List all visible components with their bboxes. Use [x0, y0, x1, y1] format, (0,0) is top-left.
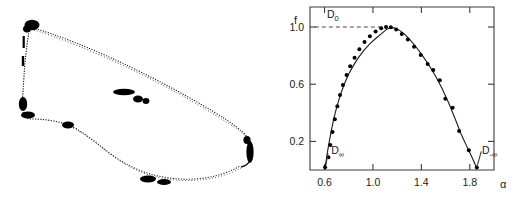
annotation-d-zero: D0: [327, 8, 339, 23]
dense-cluster-bottom-a: [140, 176, 156, 183]
data-point-0-5: [335, 104, 339, 108]
dense-cluster-left-elbow: [19, 97, 27, 111]
data-point-0-28: [457, 129, 461, 133]
orbit-lower-edge-noise: [68, 126, 241, 181]
attractor-plot: [0, 0, 272, 203]
dense-cluster-mid-upper-c: [143, 98, 150, 104]
data-point-0-16: [384, 25, 388, 29]
x-tick-label-1: 1.0: [366, 176, 381, 188]
y-tick-label-1: 0.6: [289, 78, 304, 90]
annotation-text-d-zero: D0: [327, 8, 339, 23]
data-point-0-13: [368, 34, 372, 38]
data-point-0-3: [331, 130, 335, 134]
data-point-0-0: [323, 165, 327, 169]
data-points: [323, 25, 479, 169]
dense-cluster-right-cap-b: [243, 136, 250, 144]
attractor-dense-clusters: [19, 20, 254, 185]
data-point-0-19: [400, 32, 404, 36]
data-point-0-22: [419, 53, 423, 57]
data-point-0-23: [426, 62, 430, 66]
data-point-0-20: [406, 38, 410, 42]
data-point-0-6: [338, 93, 342, 97]
data-point-0-14: [374, 30, 378, 34]
data-point-0-26: [443, 97, 447, 101]
dense-cluster-left-elbow-b: [21, 111, 35, 118]
y-tick-marks: [310, 27, 494, 141]
data-point-0-18: [394, 28, 398, 32]
fa-spectrum-plot: 0.61.01.41.8 0.20.61.0 f α D0D∞D-∞: [272, 0, 516, 203]
data-point-0-30: [475, 165, 479, 169]
orbit-upper-edge: [33, 28, 248, 138]
x-tick-marks: [325, 7, 470, 170]
dense-cluster-right-cap: [246, 141, 253, 163]
data-point-0-29: [467, 148, 471, 152]
data-point-0-25: [438, 78, 442, 82]
x-tick-label-0: 0.6: [317, 176, 332, 188]
data-point-0-24: [431, 68, 435, 72]
dense-cluster-apex-b: [23, 26, 31, 33]
x-tick-label-3: 1.8: [462, 176, 477, 188]
data-point-0-27: [451, 106, 455, 110]
annotation-text-d-plus-infinity: D∞: [331, 144, 344, 159]
attractor-panel: [0, 0, 272, 203]
x-tick-label-2: 1.4: [414, 176, 429, 188]
figure-root: 0.61.01.41.8 0.20.61.0 f α D0D∞D-∞: [0, 0, 516, 203]
y-tick-labels: 0.20.61.0: [289, 21, 304, 147]
dense-cluster-lower-left: [62, 122, 74, 129]
dense-cluster-mid-upper: [113, 89, 135, 95]
data-point-0-4: [333, 117, 337, 121]
dense-cluster-mid-upper-b: [133, 96, 143, 103]
data-point-0-8: [345, 73, 349, 77]
data-point-0-21: [412, 45, 416, 49]
annotation-text-d-minus-infinity: D-∞: [482, 144, 497, 159]
dense-cluster-bottom-b: [157, 179, 171, 185]
data-point-0-15: [379, 26, 383, 30]
dense-cluster-left-b: [22, 56, 24, 66]
y-tick-label-0: 0.2: [289, 135, 304, 147]
x-tick-labels: 0.61.01.41.8: [317, 176, 477, 188]
spectrum-panel: 0.61.01.41.8 0.20.61.0 f α D0D∞D-∞: [272, 0, 516, 203]
attractor-orbit-trace: [23, 26, 252, 181]
annotation-d-minus-infinity: D-∞: [482, 144, 497, 159]
data-point-0-12: [362, 40, 366, 44]
dense-cluster-left-a: [23, 36, 25, 48]
data-point-0-17: [389, 25, 393, 29]
d-minus-infinity-leader: [477, 151, 481, 165]
orbit-lower-edge: [66, 124, 240, 179]
data-point-0-11: [357, 47, 361, 51]
fit-curve: [325, 28, 478, 170]
data-point-0-9: [348, 64, 352, 68]
annotations: D0D∞D-∞: [326, 8, 497, 165]
data-point-0-7: [341, 83, 345, 87]
annotation-d-plus-infinity: D∞: [331, 144, 344, 159]
x-axis-label: α: [500, 178, 507, 190]
data-point-0-10: [353, 56, 357, 60]
